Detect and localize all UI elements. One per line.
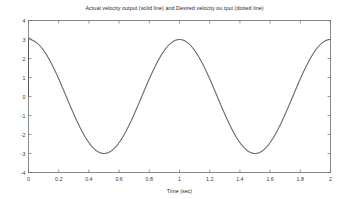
x-tick-label: 1.8 [297, 176, 304, 182]
x-tick-label: 1 [178, 176, 181, 182]
y-tick-label: -3 [21, 151, 26, 157]
x-tick-label: 0.8 [146, 176, 153, 182]
y-tick-label: -1 [21, 113, 26, 119]
plot-frame [29, 21, 331, 173]
x-tick-label: 1.4 [236, 176, 243, 182]
x-tick-label: 0.4 [85, 176, 92, 182]
y-tick-label: 4 [23, 18, 26, 24]
x-tick-label: 2 [329, 176, 332, 182]
figure-container: Actual velocity output (solid line) and … [0, 0, 349, 199]
plot-area: 00.20.40.60.811.21.41.61.82 -4-3-2-10123… [0, 0, 349, 199]
y-axis-tick-labels: -4-3-2-101234 [21, 18, 26, 176]
y-tick-label: 1 [23, 75, 26, 81]
y-tick-label: -4 [21, 170, 26, 176]
x-tick-label: 1.2 [206, 176, 213, 182]
y-tick-label: 0 [23, 94, 26, 100]
x-axis-title: Time (sec) [167, 188, 192, 194]
x-tick-label: 0.2 [55, 176, 62, 182]
y-tick-label: 2 [23, 56, 26, 62]
x-tick-label: 0 [27, 176, 30, 182]
y-tick-label: -2 [21, 132, 26, 138]
x-tick-label: 0.6 [115, 176, 122, 182]
x-tick-label: 1.6 [266, 176, 273, 182]
y-tick-label: 3 [23, 37, 26, 43]
x-axis-tick-labels: 00.20.40.60.811.21.41.61.82 [27, 176, 332, 182]
